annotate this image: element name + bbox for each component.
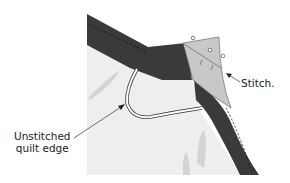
binding-diagram: Stitch. Unstitched quilt edge bbox=[0, 0, 290, 183]
arrow-head-stitch bbox=[226, 73, 232, 78]
unstitched-edge-label: Unstitched quilt edge bbox=[14, 130, 71, 154]
pin-icon bbox=[221, 54, 225, 58]
pin-icon bbox=[191, 36, 195, 40]
unstitched-label-line1: Unstitched bbox=[14, 130, 71, 142]
unstitched-label-line2: quilt edge bbox=[14, 142, 71, 154]
illustration bbox=[0, 0, 290, 183]
pin-icon bbox=[208, 48, 212, 52]
stitch-label: Stitch. bbox=[241, 77, 275, 89]
arrow-line-stitch bbox=[229, 75, 240, 82]
